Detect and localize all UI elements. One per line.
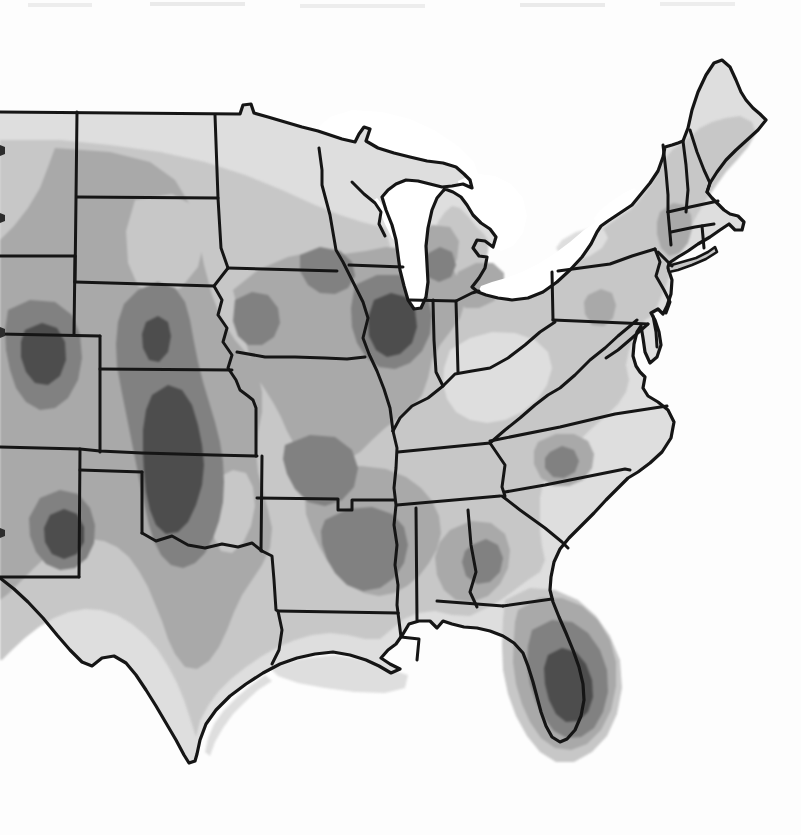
border-rhodeisland bbox=[702, 226, 704, 248]
map-svg bbox=[0, 0, 801, 835]
scan-artifact-top-5 bbox=[660, 2, 735, 6]
border-newmexico-texas bbox=[79, 449, 80, 577]
scanned-map-page bbox=[0, 0, 801, 835]
scan-artifact-top-1 bbox=[28, 3, 92, 7]
border-arkansas-louisiana bbox=[278, 611, 398, 613]
border-wyoming-colorado bbox=[0, 334, 100, 336]
border-mississippi-alabama bbox=[416, 508, 417, 620]
scan-artifact-top-4 bbox=[520, 3, 605, 7]
border-ohio-pennsylvania bbox=[552, 272, 553, 320]
scan-artifact-top-2 bbox=[150, 2, 245, 6]
border-oklahoma-panhandle bbox=[80, 470, 142, 472]
scan-artifact-top-3 bbox=[300, 4, 425, 8]
border-northdakota-southdakota bbox=[77, 197, 218, 198]
border-nebraska-kansas bbox=[100, 369, 232, 370]
border-wisconsin-illinois bbox=[349, 265, 403, 267]
border-oklahoma-arkansas bbox=[261, 456, 262, 551]
border-indiana-ohio bbox=[456, 301, 458, 372]
border-wyoming-nebraska bbox=[74, 256, 75, 334]
